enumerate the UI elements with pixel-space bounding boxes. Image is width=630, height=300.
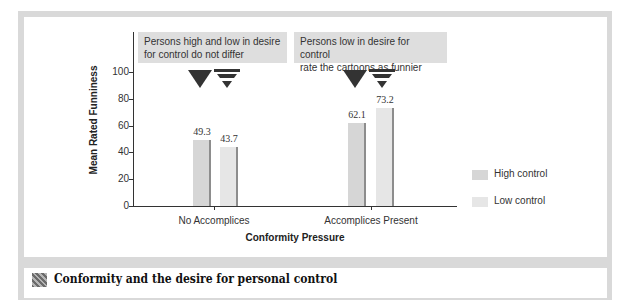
x-category-label: Accomplices Present <box>324 215 417 226</box>
y-tick-label: 40 <box>118 147 129 157</box>
x-axis <box>133 206 457 207</box>
x-category-label: No Accomplices <box>178 215 249 226</box>
y-tick <box>129 99 133 100</box>
x-axis-title: Conformity Pressure <box>246 232 345 243</box>
low-control-arrow-icon <box>214 69 240 89</box>
legend-swatch-high-control <box>472 170 488 180</box>
annotation-line: for control do not differ <box>144 48 281 61</box>
y-tick <box>129 179 133 180</box>
legend-label-high-control: High control <box>494 168 547 179</box>
y-tick <box>129 126 133 127</box>
y-tick-label: 20 <box>118 174 129 184</box>
figure-caption: Conformity and the desire for personal c… <box>54 272 337 286</box>
y-tick-label: 100 <box>112 67 129 77</box>
y-tick-label: 0 <box>123 201 129 211</box>
legend-swatch-low-control <box>472 197 488 207</box>
high-control-arrow-icon <box>343 70 367 88</box>
y-axis <box>133 32 134 207</box>
high-control-arrow-icon <box>188 70 212 88</box>
y-tick <box>129 152 133 153</box>
bar-accomplices-present-low-control <box>376 108 394 206</box>
annotation-line: Persons low in desire for control <box>300 35 441 61</box>
y-tick-label: 80 <box>118 94 129 104</box>
bar-value-label: 49.3 <box>193 126 211 137</box>
x-tick <box>214 206 215 210</box>
x-tick <box>371 206 372 210</box>
y-axis-title: Mean Rated Funniness <box>88 66 99 175</box>
figure-icon <box>32 273 47 287</box>
annotation-line: Persons high and low in desire <box>144 35 281 48</box>
y-tick <box>129 206 133 207</box>
bar-value-label: 43.7 <box>220 133 238 144</box>
annotation-box-no-accomplices: Persons high and low in desire for contr… <box>138 32 287 63</box>
bar-accomplices-present-high-control <box>348 123 366 206</box>
low-control-arrow-icon <box>369 69 395 89</box>
legend-label-low-control: Low control <box>494 195 545 206</box>
annotation-box-accomplices-present: Persons low in desire for control rate t… <box>294 32 447 63</box>
y-tick-label: 60 <box>118 121 129 131</box>
bar-no-accomplices-high-control <box>193 140 211 206</box>
bar-value-label: 62.1 <box>348 109 366 120</box>
bar-no-accomplices-low-control <box>220 147 238 206</box>
y-tick <box>129 72 133 73</box>
bar-value-label: 73.2 <box>376 94 394 105</box>
